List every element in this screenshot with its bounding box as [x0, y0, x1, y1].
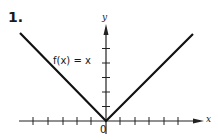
y-axis-label: y	[102, 12, 107, 22]
x-axis-label: x	[206, 114, 211, 124]
x-axis-arrow-icon	[193, 119, 204, 124]
origin-label: 0	[100, 124, 106, 135]
function-graph	[0, 0, 218, 140]
y-axis-arrow-icon	[104, 24, 109, 35]
